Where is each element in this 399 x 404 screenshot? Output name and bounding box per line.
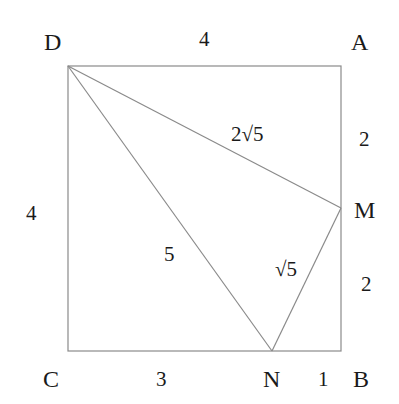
point-label-m: M xyxy=(354,197,375,223)
length-label-dn: 5 xyxy=(164,242,175,266)
length-label-nb: 1 xyxy=(318,367,329,391)
segment-dn xyxy=(68,66,272,351)
point-label-n: N xyxy=(263,366,280,392)
length-label-mb: 2 xyxy=(361,272,372,296)
square-abcd xyxy=(68,66,341,351)
point-label-d: D xyxy=(44,29,61,55)
length-label-dc: 4 xyxy=(26,201,37,225)
point-label-a: A xyxy=(351,29,369,55)
point-label-c: C xyxy=(43,366,59,392)
length-label-cn: 3 xyxy=(156,367,167,391)
length-label-am: 2 xyxy=(359,127,370,151)
length-label-da: 4 xyxy=(199,27,210,51)
length-label-dm: 2√5 xyxy=(231,122,264,146)
length-label-mn: √5 xyxy=(275,257,297,281)
segment-dm xyxy=(68,66,341,208)
point-label-b: B xyxy=(353,366,369,392)
geometry-diagram: D A M C N B 4 4 2 2 3 1 2√5 5 √5 xyxy=(0,0,399,404)
